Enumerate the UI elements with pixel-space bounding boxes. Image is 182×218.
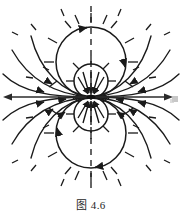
figure-caption-text: 图 4.6 [76,199,106,211]
figure-container: 图 4.6 [0,0,182,218]
origin-node [87,95,96,99]
arrowhead-ul-3 [60,99,66,100]
dipole-field-diagram [0,0,182,218]
figure-caption: 图 4.6 [0,196,182,212]
arrowhead-ur-3 [116,99,122,100]
